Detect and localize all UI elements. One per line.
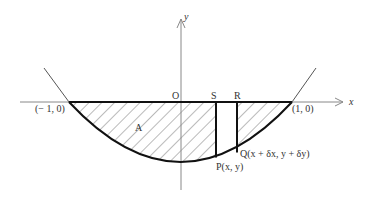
- y-axis-label: y: [183, 11, 189, 22]
- point-p-label: P(x, y): [216, 161, 243, 173]
- parabola-area-diagram: y x O S R (− 1, 0) (1, 0) A Q(x + δx, y …: [0, 0, 374, 215]
- origin-label: O: [172, 90, 179, 101]
- point-r-label: R: [234, 90, 241, 101]
- right-root-label: (1, 0): [292, 103, 314, 115]
- region-a-label: A: [135, 122, 143, 133]
- point-q-label: Q(x + δx, y + δy): [240, 148, 310, 160]
- x-axis-label: x: [348, 96, 354, 107]
- point-s-label: S: [211, 90, 217, 101]
- left-root-label: (− 1, 0): [35, 103, 65, 115]
